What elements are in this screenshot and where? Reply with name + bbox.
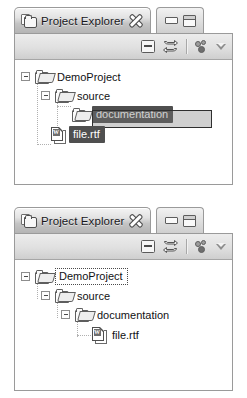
link-with-editor-icon [162, 39, 179, 54]
twisty-collapse-icon[interactable] [41, 91, 50, 100]
project-explorer-icon [21, 14, 36, 28]
folder-icon [55, 90, 71, 102]
tab-project-explorer[interactable]: Project Explorer [14, 207, 151, 233]
tree-label: DemoProject [55, 70, 123, 84]
project-tree-after[interactable]: DemoProject source documentation W fil [15, 260, 232, 389]
collapse-all-icon [141, 240, 155, 253]
link-with-editor-button[interactable] [162, 239, 179, 254]
close-icon[interactable] [129, 14, 142, 27]
project-explorer-view-after: Project Explorer [14, 207, 233, 391]
tree-row-demoproject[interactable]: DemoProject [15, 267, 232, 286]
tree-label: documentation [92, 106, 173, 123]
toolbar-separator [186, 239, 187, 254]
folder-icon [75, 309, 91, 321]
tree-row-source[interactable]: source [15, 86, 232, 105]
minimize-icon[interactable] [165, 216, 176, 225]
rtf-file-icon: W [92, 327, 106, 342]
toolbar-separator [186, 39, 187, 54]
view-chevron-button[interactable] [216, 44, 226, 50]
view-menu-icon [194, 240, 209, 253]
project-explorer-icon [21, 214, 36, 228]
view-chevron-button[interactable] [216, 244, 226, 250]
view-menu-icon [194, 40, 209, 53]
collapse-all-icon [141, 40, 155, 53]
tab-label: Project Explorer [41, 215, 124, 227]
window-buttons [156, 207, 204, 233]
link-with-editor-icon [162, 239, 179, 254]
tree-label: DemoProject [55, 268, 128, 285]
doc-icon-letter: W [53, 129, 60, 136]
chevron-down-icon [216, 44, 226, 50]
tree-row-file-rtf[interactable]: W file.rtf [15, 324, 232, 345]
project-explorer-view-before: Project Explorer [14, 7, 233, 185]
view-titlebar: Project Explorer [14, 207, 233, 233]
view-menu-button[interactable] [194, 40, 209, 53]
chevron-down-icon [216, 244, 226, 250]
tab-label: Project Explorer [41, 15, 124, 27]
link-with-editor-button[interactable] [162, 39, 179, 54]
folder-icon [35, 271, 51, 283]
twisty-collapse-icon[interactable] [21, 272, 30, 281]
doc-icon-letter: W [94, 329, 101, 336]
tree-label: file.rtf [110, 328, 141, 342]
view-menu-button[interactable] [194, 240, 209, 253]
tree-row-documentation[interactable]: documentation [15, 305, 232, 324]
window-buttons [156, 7, 204, 33]
folder-icon [35, 71, 51, 83]
view-body: DemoProject source documentation W [14, 33, 233, 185]
view-body: DemoProject source documentation W fil [14, 233, 233, 391]
twisty-collapse-icon[interactable] [21, 72, 30, 81]
collapse-all-button[interactable] [141, 40, 155, 53]
collapse-all-button[interactable] [141, 240, 155, 253]
view-toolbar [15, 234, 232, 260]
tree-label: source [75, 289, 112, 303]
tree-label: source [75, 89, 112, 103]
close-icon[interactable] [129, 214, 142, 227]
tree-row-source[interactable]: source [15, 286, 232, 305]
folder-icon [55, 290, 71, 302]
view-toolbar [15, 34, 232, 60]
twisty-collapse-icon[interactable] [61, 310, 70, 319]
minimize-icon[interactable] [165, 16, 176, 25]
tree-label: documentation [95, 308, 171, 322]
tab-project-explorer[interactable]: Project Explorer [14, 7, 151, 33]
view-titlebar: Project Explorer [14, 7, 233, 33]
tree-label: file.rtf [69, 126, 105, 143]
maximize-icon[interactable] [183, 215, 196, 227]
project-tree-before[interactable]: DemoProject source documentation W [15, 60, 232, 183]
twisty-collapse-icon[interactable] [41, 291, 50, 300]
folder-icon [72, 109, 88, 121]
tree-row-file-rtf[interactable]: W file.rtf [15, 124, 232, 145]
maximize-icon[interactable] [183, 15, 196, 27]
tree-row-demoproject[interactable]: DemoProject [15, 67, 232, 86]
rtf-file-icon: W [51, 127, 65, 142]
tree-row-documentation[interactable]: documentation [15, 105, 232, 124]
